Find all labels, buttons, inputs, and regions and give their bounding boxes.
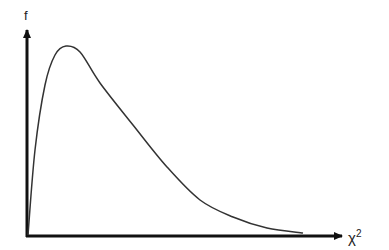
x-axis-label: χ2: [348, 228, 361, 246]
x-axis-label-superscript: 2: [356, 228, 362, 239]
density-curve: [28, 46, 303, 235]
chart-svg: [0, 0, 389, 250]
chart-area: f χ2: [0, 0, 389, 250]
y-axis-label: f: [24, 8, 28, 23]
x-axis-label-base: χ: [348, 229, 356, 246]
